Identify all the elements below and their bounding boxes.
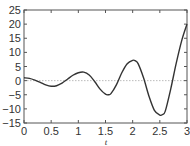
- x-tick-label: 1.5: [98, 125, 113, 137]
- x-tick-label: 3: [184, 125, 190, 137]
- y-axis-ticks: −15−10−50510152025: [2, 4, 187, 129]
- y-tick-label: 5: [15, 61, 21, 73]
- y-tick-label: 15: [9, 32, 21, 44]
- y-tick-label: −5: [8, 89, 21, 101]
- y-tick-label: −10: [2, 103, 21, 115]
- y-tick-label: 10: [9, 46, 21, 58]
- y-tick-label: 20: [9, 18, 21, 30]
- y-tick-label: −15: [2, 117, 21, 129]
- x-axis-ticks: 00.511.522.53: [21, 10, 190, 137]
- plot-frame: [24, 10, 187, 123]
- x-tick-label: 1: [75, 125, 81, 137]
- x-tick-label: 0: [21, 125, 27, 137]
- x-tick-label: 0.5: [44, 125, 59, 137]
- x-axis-label: t: [105, 137, 108, 146]
- y-tick-label: 25: [9, 4, 21, 16]
- x-tick-label: 2: [130, 125, 136, 137]
- y-tick-label: 0: [15, 75, 21, 87]
- data-series-line: [24, 24, 187, 115]
- x-tick-label: 2.5: [152, 125, 167, 137]
- line-chart: 00.511.522.53 −15−10−50510152025 t: [0, 0, 190, 146]
